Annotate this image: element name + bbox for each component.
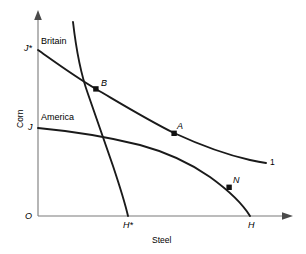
x-intercept-h: H [248, 221, 255, 230]
curve-label-indifference-1: 1 [270, 158, 275, 167]
x-axis-title: Steel [152, 236, 171, 245]
point-a-marker [171, 131, 176, 136]
x-axis [38, 212, 293, 220]
point-b-marker [93, 86, 98, 91]
origin-label: O [25, 212, 32, 221]
x-intercept-h-star: H* [123, 221, 133, 230]
point-n-marker [226, 185, 231, 190]
america-ppf-curve [38, 128, 250, 216]
point-a-label: A [177, 122, 183, 131]
x-axis-arrowhead [282, 212, 293, 220]
y-axis-arrowhead [34, 10, 42, 20]
britain-ppf-curve [73, 22, 128, 216]
trade-diagram-figure: Corn Steel O J* J H* H Britain America 1… [0, 0, 306, 254]
point-b-label: B [101, 79, 107, 88]
point-n-label: N [233, 176, 240, 185]
y-intercept-j-star: J* [24, 44, 32, 53]
curve-label-britain: Britain [41, 37, 67, 46]
indifference-curve-1 [38, 50, 266, 163]
y-intercept-j: J [28, 123, 33, 132]
y-axis-title: Corn [16, 110, 25, 128]
curve-label-america: America [41, 113, 74, 122]
